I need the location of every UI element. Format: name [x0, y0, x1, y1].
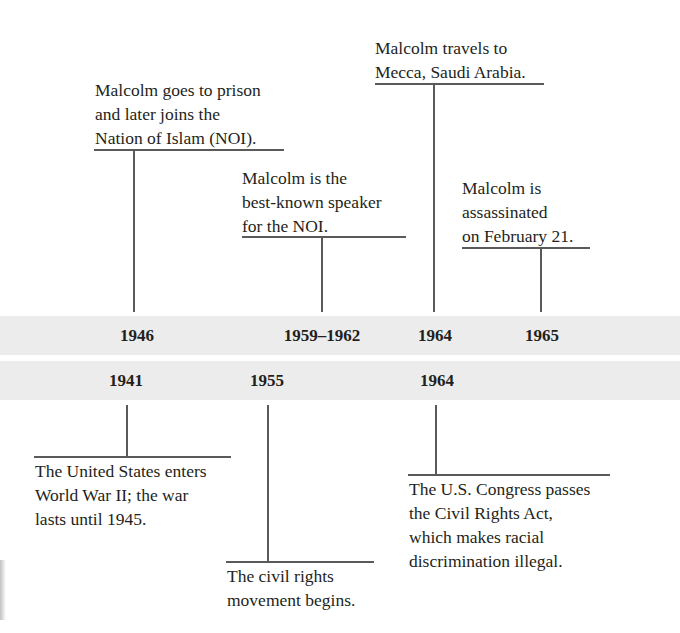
event-connector-1959-1962 — [321, 237, 323, 312]
event-connector-1955 — [267, 405, 269, 562]
year-1965: 1965 — [525, 326, 559, 346]
event-label-1965: Malcolm is assassinated on February 21. — [462, 176, 573, 248]
year-1946: 1946 — [120, 326, 154, 346]
page-edge-shadow — [0, 560, 6, 620]
year-1959-1962: 1959–1962 — [284, 326, 361, 346]
year-1941: 1941 — [109, 371, 143, 391]
event-label-1964-civil-rights: The U.S. Congress passes the Civil Right… — [409, 477, 590, 573]
year-1964-top: 1964 — [418, 326, 452, 346]
year-1964-bottom: 1964 — [420, 371, 454, 391]
event-connector-1964-mecca — [433, 84, 435, 312]
event-connector-1964-civil-rights — [435, 405, 437, 475]
event-overline-1964-civil-rights — [408, 474, 610, 476]
event-underline-1946 — [94, 149, 284, 151]
event-underline-1959-1962 — [242, 236, 406, 238]
event-connector-1965 — [540, 248, 542, 312]
year-1955: 1955 — [250, 371, 284, 391]
event-label-1955: The civil rights movement begins. — [227, 564, 355, 612]
event-connector-1946 — [133, 150, 135, 312]
bottom-year-band — [0, 361, 680, 400]
event-connector-1941 — [126, 405, 128, 457]
event-label-1959-1962: Malcolm is the best-known speaker for th… — [242, 166, 381, 238]
event-underline-1965 — [462, 247, 590, 249]
event-underline-1964-mecca — [375, 83, 544, 85]
event-label-1946: Malcolm goes to prison and later joins t… — [95, 78, 261, 150]
event-overline-1941 — [34, 456, 231, 458]
event-label-1964-mecca: Malcolm travels to Mecca, Saudi Arabia. — [375, 36, 526, 84]
event-overline-1955 — [226, 561, 374, 563]
event-label-1941: The United States enters World War II; t… — [35, 459, 207, 531]
